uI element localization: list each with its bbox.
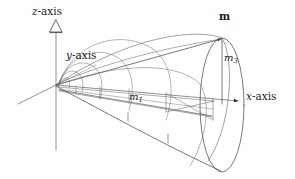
cone-diagram-figure: z-axis y-axis x-axis m m3 m1 xyxy=(0,0,295,179)
x-axis-label: x-axis xyxy=(246,91,276,102)
m3-label-subscript: 3 xyxy=(233,57,237,65)
y-axis-label-suffix: -axis xyxy=(72,49,96,61)
z-axis-arrowhead xyxy=(50,20,62,32)
z-axis-label: z-axis xyxy=(32,6,62,17)
m1-label: m1 xyxy=(129,92,143,102)
generator-ticks xyxy=(128,113,168,143)
x-axis-label-suffix: -axis xyxy=(252,90,276,102)
z-axis-label-suffix: -axis xyxy=(38,5,62,17)
m1-label-subscript: 1 xyxy=(138,96,142,104)
m3-label: m3 xyxy=(224,53,238,63)
vector-m-label: m xyxy=(219,11,230,22)
y-axis-label: y-axis xyxy=(66,50,96,61)
axis-x xyxy=(56,85,238,101)
